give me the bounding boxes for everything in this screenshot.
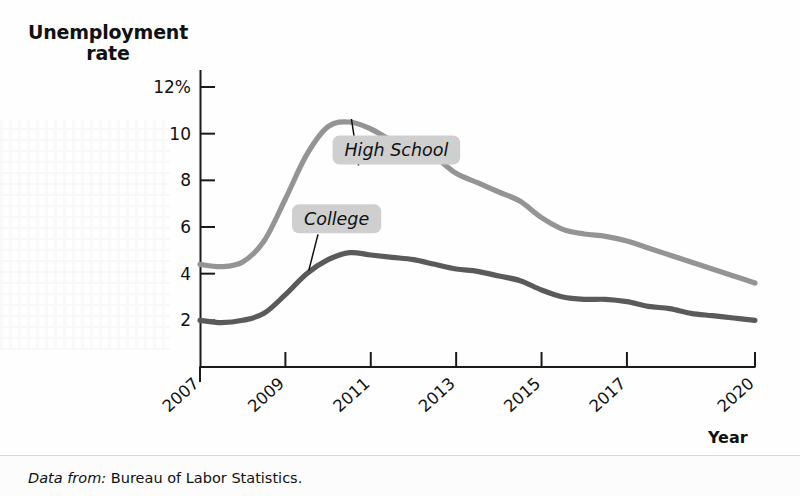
axes: 12%108642 2007200920112013201520172020: [153, 70, 757, 416]
series-line-high-school: [200, 122, 755, 283]
line-chart: 12%108642 2007200920112013201520172020 H…: [0, 0, 800, 496]
x-axis-tick-label: 2015: [500, 374, 544, 416]
x-axis-tick-label: 2007: [159, 374, 203, 416]
callout-label-high-school: High School: [344, 140, 448, 160]
y-axis-tick-label: 12%: [153, 77, 191, 97]
y-axis-tick-labels: 12%108642: [153, 77, 191, 330]
series-line-college: [200, 253, 755, 323]
x-axis-tick-label: 2017: [586, 374, 630, 416]
y-axis-tick-label: 8: [180, 170, 191, 190]
y-axis-tick-label: 6: [180, 217, 191, 237]
data-series-group: [200, 122, 755, 323]
x-axis-tick-label: 2009: [244, 374, 288, 416]
source-note-text: Bureau of Labor Statistics.: [111, 470, 302, 486]
x-axis-tick-label: 2020: [714, 374, 758, 416]
x-axis-tick-labels: 2007200920112013201520172020: [159, 374, 758, 416]
source-note: Data from: Bureau of Labor Statistics.: [28, 470, 302, 486]
y-axis-tick-marks: [201, 87, 215, 320]
x-axis-title: Year: [707, 428, 748, 447]
x-axis-tick-label: 2013: [415, 374, 459, 416]
callout-label-college: College: [304, 209, 369, 229]
y-axis-tick-label: 2: [180, 310, 191, 330]
figure-panel: Unemployment rate 12%108642 200720092011…: [0, 0, 800, 496]
x-axis-tick-label: 2011: [330, 374, 374, 416]
y-axis-tick-label: 10: [169, 124, 191, 144]
y-axis-tick-label: 4: [180, 264, 191, 284]
source-note-prefix: Data from:: [28, 470, 106, 486]
